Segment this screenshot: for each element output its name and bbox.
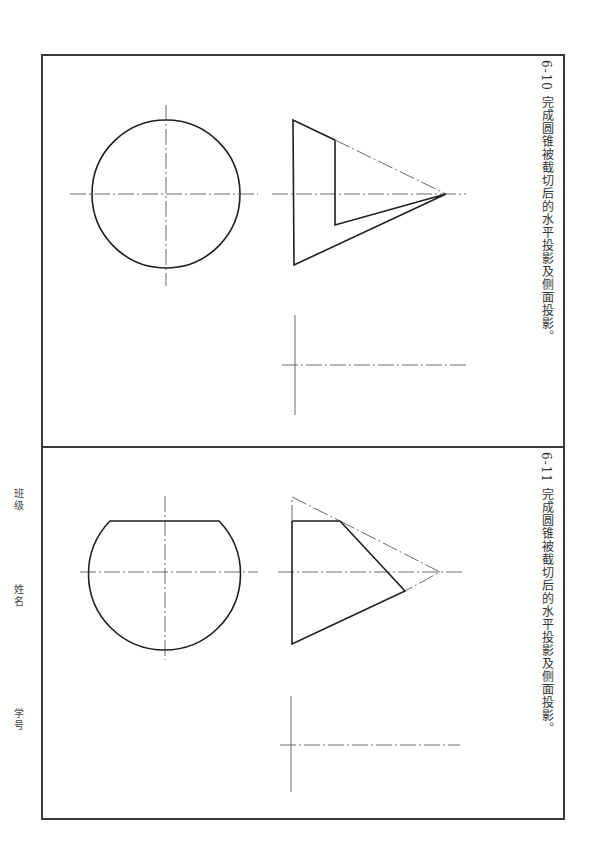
truncated-circle-view: [80, 496, 258, 660]
cut-cone-outline: [292, 521, 405, 644]
side-projection-axes: [280, 696, 460, 792]
exercise-6-10-drawing: [70, 105, 466, 415]
cone-profile-view: [272, 120, 466, 265]
truncated-base-circle: [88, 521, 240, 650]
removed-generator-line: [335, 140, 446, 194]
exercise-6-11-drawing: [80, 496, 464, 792]
cut-cone-outline: [293, 120, 446, 265]
removed-top-construction: [292, 497, 340, 521]
side-projection-axes: [282, 315, 466, 415]
circle-view: [70, 105, 258, 286]
removed-apex-construction: [340, 521, 440, 591]
projection-drawings: [0, 0, 590, 848]
cone-profile-view: [278, 497, 464, 644]
